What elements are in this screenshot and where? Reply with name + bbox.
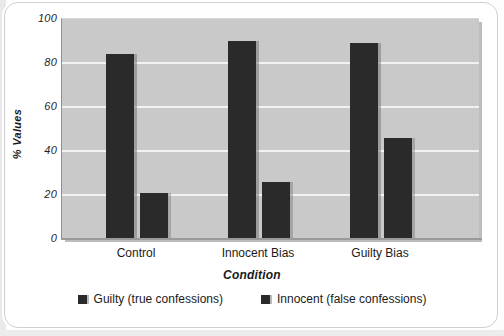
legend-item-guilty: Guilty (true confessions) xyxy=(78,292,223,306)
x-tick-guilty-bias: Guilty Bias xyxy=(351,246,408,260)
bar-control-guilty xyxy=(106,54,134,239)
legend-swatch-icon xyxy=(78,295,87,304)
bar-innocent-bias-innocent xyxy=(262,182,290,239)
y-tick-100: 100 xyxy=(5,12,57,24)
bar-control-innocent xyxy=(140,193,168,239)
legend-label-guilty: Guilty (true confessions) xyxy=(94,292,223,306)
bar-chart: % Values 100 80 60 40 20 0 xyxy=(0,0,504,336)
x-tick-innocent-bias: Innocent Bias xyxy=(222,246,295,260)
bar-guilty-bias-innocent xyxy=(384,138,412,239)
legend-swatch-icon xyxy=(261,295,270,304)
y-tick-60: 60 xyxy=(5,100,57,112)
chart-legend: Guilty (true confessions) Innocent (fals… xyxy=(0,292,504,306)
legend-label-innocent: Innocent (false confessions) xyxy=(277,292,426,306)
y-axis-tick-labels: 100 80 60 40 20 0 xyxy=(0,0,57,336)
y-tick-40: 40 xyxy=(5,144,57,156)
bar-guilty-bias-guilty xyxy=(350,43,378,239)
y-tick-0: 0 xyxy=(5,232,57,244)
bar-innocent-bias-guilty xyxy=(228,41,256,239)
scanned-page: % Values 100 80 60 40 20 0 xyxy=(0,0,504,336)
y-tick-80: 80 xyxy=(5,56,57,68)
x-tick-control: Control xyxy=(117,246,156,260)
x-axis-line xyxy=(61,238,482,240)
y-tick-20: 20 xyxy=(5,188,57,200)
legend-item-innocent: Innocent (false confessions) xyxy=(261,292,426,306)
plot-area xyxy=(61,18,479,239)
x-axis-title: Condition xyxy=(0,268,504,282)
